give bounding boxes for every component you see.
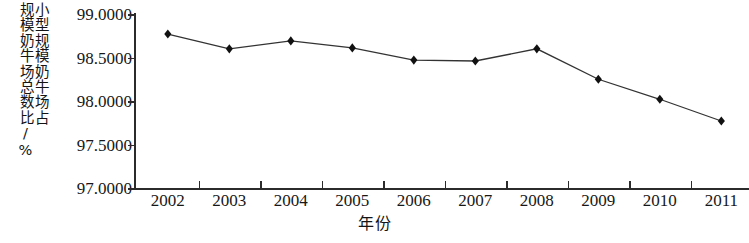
data-point-marker xyxy=(226,44,233,53)
y-axis-title: 小型规模奶牛场占 规模奶牛场总数比/% xyxy=(0,0,48,200)
x-axis-tick-mark xyxy=(322,181,324,189)
data-point-marker xyxy=(472,56,479,65)
x-axis-tick-label: 2005 xyxy=(321,192,383,209)
data-point-marker xyxy=(718,116,725,125)
x-axis-tick-mark xyxy=(629,181,631,189)
x-axis-tick-mark xyxy=(691,181,693,189)
y-axis-tick-label: 98.5000 xyxy=(44,50,132,67)
y-axis-tick-label: 98.0000 xyxy=(44,93,132,110)
x-axis-tick-label: 2010 xyxy=(629,192,691,209)
x-axis-tick-mark xyxy=(445,181,447,189)
y-axis-tick-mark xyxy=(128,188,135,190)
y-axis-tick-label: 97.5000 xyxy=(44,137,132,154)
y-axis-tick-label: 97.0000 xyxy=(44,180,132,197)
x-axis-tick-mark xyxy=(568,181,570,189)
series-line-group xyxy=(134,14,749,188)
plot-area xyxy=(134,14,749,188)
y-axis-tick-label: 99.0000 xyxy=(44,6,132,23)
x-axis-tick-label: 2002 xyxy=(137,192,199,209)
x-axis-tick-label: 2007 xyxy=(444,192,506,209)
x-axis-tick-mark xyxy=(506,181,508,189)
series-line xyxy=(168,34,722,121)
x-axis-tick-label: 2008 xyxy=(506,192,568,209)
x-axis-tick-label: 2011 xyxy=(690,192,749,209)
data-point-marker xyxy=(656,95,663,104)
data-point-marker xyxy=(533,44,540,53)
data-point-marker xyxy=(164,29,171,38)
y-axis-tick-mark xyxy=(128,101,135,103)
x-axis-tick-label: 2006 xyxy=(383,192,445,209)
x-axis-tick-label: 2004 xyxy=(260,192,322,209)
x-axis-tick-mark xyxy=(199,181,201,189)
x-axis-tick-label: 2003 xyxy=(198,192,260,209)
y-axis-tick-mark xyxy=(128,145,135,147)
x-axis-line xyxy=(134,188,749,190)
x-axis-tick-mark xyxy=(383,181,385,189)
y-axis-tick-labels: 97.000097.500098.000098.500099.0000 xyxy=(44,0,132,243)
data-point-marker xyxy=(349,43,356,52)
y-axis-title-line-2: 规模奶牛场总数比/% xyxy=(18,0,33,158)
x-axis-tick-label: 2009 xyxy=(567,192,629,209)
y-axis-tick-mark xyxy=(128,14,135,16)
data-point-marker xyxy=(595,75,602,84)
x-axis-title: 年份 xyxy=(0,216,749,232)
data-point-marker xyxy=(287,36,294,45)
x-axis-tick-mark xyxy=(260,181,262,189)
y-axis-tick-mark xyxy=(128,58,135,60)
data-point-marker xyxy=(410,56,417,65)
line-chart: 小型规模奶牛场占 规模奶牛场总数比/% 97.000097.500098.000… xyxy=(0,0,749,243)
